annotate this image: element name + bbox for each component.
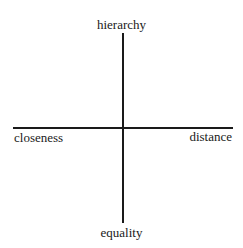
axis-label-right: distance bbox=[189, 130, 232, 143]
axis-label-bottom: equality bbox=[0, 226, 243, 239]
axis-label-top: hierarchy bbox=[0, 18, 243, 31]
quadrant-diagram: hierarchy equality closeness distance bbox=[0, 0, 243, 248]
axis-label-left: closeness bbox=[14, 131, 63, 144]
